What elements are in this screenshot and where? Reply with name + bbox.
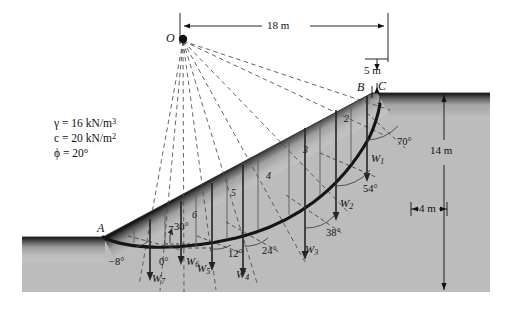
soil-friction-angle-label: ϕ = 20° (54, 148, 88, 160)
alpha-angle-2: 54° (363, 184, 378, 195)
slice-number-4: 4 (266, 171, 271, 181)
alpha-angle-5: 12° (228, 249, 243, 260)
slice-number-5: 5 (231, 188, 236, 198)
soil-unit-weight-label: γ = 16 kN/m3 (54, 118, 116, 130)
point-label-B: B (357, 81, 364, 93)
alpha-angle-4: 24° (262, 246, 277, 257)
weight-label-4: W4 (236, 269, 249, 282)
weight-label-2: W2 (340, 198, 353, 211)
weight-label-3: W3 (305, 244, 318, 257)
slice-number-2: 2 (344, 114, 349, 124)
slice-number-1: 1 (377, 96, 382, 106)
point-label-A: A (97, 222, 104, 234)
soil-cohesion-label: c = 20 kN/m2 (54, 133, 116, 145)
center-point-dot (179, 35, 187, 43)
alpha-angle-3: 38° (326, 228, 341, 239)
dimension-label-5m: 5 m (364, 65, 381, 76)
dimension-label-14m: 14 m (430, 145, 452, 156)
point-label-C: C (378, 80, 386, 92)
weight-label-7: W7 (152, 273, 165, 286)
point-label-O: O (166, 32, 175, 44)
weight-label-6: W6 (186, 256, 199, 269)
slice-number-7: 7 (168, 225, 173, 235)
slice-number-6: 6 (192, 210, 197, 220)
slice-number-3: 3 (303, 145, 308, 155)
dimension-label-18m: 18 m (267, 20, 289, 31)
slope-angle-label: 30° (174, 222, 189, 233)
weight-label-1: W1 (371, 153, 384, 166)
alpha-angle-6: 0° (159, 257, 168, 268)
alpha-angle-7: −8° (109, 257, 124, 268)
dimension-label-4m: 4 m (419, 203, 436, 214)
slope-stability-figure: γ = 16 kN/m3 c = 20 kN/m2 ϕ = 20° O A B … (0, 0, 515, 309)
alpha-angle-1: 70° (397, 137, 412, 148)
